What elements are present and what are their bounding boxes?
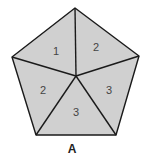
region-label-left: 2	[40, 84, 46, 96]
region-label-top-right: 2	[93, 41, 99, 53]
figure-caption: A	[68, 142, 77, 156]
region-label-bottom: 3	[73, 106, 79, 118]
region-label-right: 3	[106, 84, 112, 96]
pentagon-diagram: 1 2 2 3 3 A	[0, 0, 145, 157]
region-label-top-left: 1	[53, 45, 59, 57]
